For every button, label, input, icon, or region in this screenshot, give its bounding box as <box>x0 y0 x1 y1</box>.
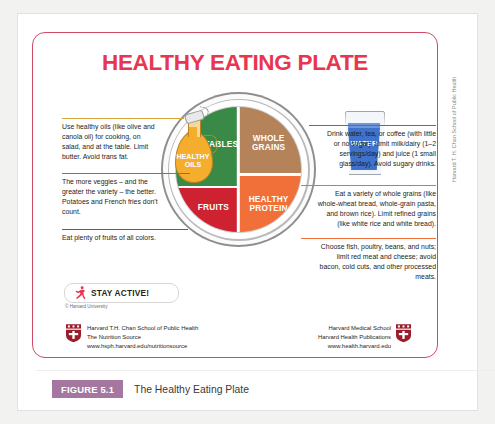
credit-left-line2: The Nutrition Source <box>87 333 257 342</box>
plate-label-fruits: FRUITS <box>198 203 229 213</box>
callout-text-fruits: Eat plenty of fruits of all colors. <box>62 233 158 243</box>
plate-label-healthy-protein: HEALTHYPROTEIN <box>249 195 289 214</box>
callout-text-vegetables: The more veggies – and the greater the v… <box>62 177 158 216</box>
page-title: HEALTHY EATING PLATE <box>33 50 437 76</box>
credit-right-line3[interactable]: www.health.harvard.edu <box>241 342 391 351</box>
side-credit-vertical: Harvard T. H. Chan School of Public Heal… <box>451 77 457 182</box>
running-figure-icon <box>69 285 91 301</box>
plate-divider-vertical <box>237 107 239 232</box>
callout-rule-water <box>326 125 436 126</box>
figure-number-badge: FIGURE 5.1 <box>52 380 123 398</box>
callout-rule-healthy-protein <box>316 238 436 239</box>
healthy-eating-plate-poster: HEALTHY EATING PLATE VEGETABLES FRUITS W… <box>32 32 438 358</box>
credit-left-line3[interactable]: www.hsph.harvard.edu/nutritionsource <box>87 342 257 351</box>
figure-caption-bar: FIGURE 5.1 The Healthy Eating Plate <box>52 380 249 398</box>
callout-text-water: Drink water, tea, or coffee (with little… <box>326 129 436 168</box>
callout-text-healthy-protein: Choose fish, poultry, beans, and nuts; l… <box>316 242 436 281</box>
callout-healthy-protein: Choose fish, poultry, beans, and nuts; l… <box>316 238 436 281</box>
figure-caption-text: The Healthy Eating Plate <box>134 384 249 395</box>
callout-rule-whole-grains <box>316 185 436 186</box>
page-sheet: HEALTHY EATING PLATE VEGETABLES FRUITS W… <box>18 14 477 410</box>
healthy-oils-cruet-icon: HEALTHYOILS <box>173 109 213 183</box>
copyright-notice: © Harvard University <box>65 304 107 309</box>
plate-quadrant-fruits: FRUITS <box>176 186 238 232</box>
callout-vegetables: The more veggies – and the greater the v… <box>62 173 158 216</box>
credit-right-line2: Harvard Health Publications <box>241 333 391 342</box>
callout-water: Drink water, tea, or coffee (with little… <box>326 125 436 168</box>
connector-oils <box>158 118 184 119</box>
harvard-shield-icon-left <box>64 323 83 343</box>
callout-whole-grains: Eat a variety of whole grains (like whol… <box>316 185 436 228</box>
credit-harvard-chan: Harvard T.H. Chan School of Public Healt… <box>87 324 257 351</box>
cruet-oil-level <box>189 127 198 137</box>
stay-active-badge: STAY ACTIVE! <box>64 283 179 303</box>
plate-divider-left <box>176 186 238 188</box>
connector-fruits <box>158 229 188 230</box>
credit-left-line1: Harvard T.H. Chan School of Public Healt… <box>87 324 257 333</box>
healthy-oils-label: HEALTHYOILS <box>173 153 213 169</box>
callout-rule-vegetables <box>62 173 158 174</box>
callout-healthy-oils: Use healthy oils (like olive and canola … <box>62 118 158 161</box>
callout-rule-fruits <box>62 229 158 230</box>
harvard-shield-icon-right <box>394 323 413 343</box>
callout-text-oils: Use healthy oils (like olive and canola … <box>62 122 158 161</box>
callout-fruits: Eat plenty of fruits of all colors. <box>62 229 158 243</box>
plate-label-whole-grains: WHOLEGRAINS <box>252 134 285 153</box>
connector-vegetables <box>158 173 190 174</box>
stay-active-label: STAY ACTIVE! <box>91 288 149 298</box>
callout-rule-oils <box>62 118 158 119</box>
credit-right-line1: Harvard Medical School <box>241 324 391 333</box>
plate-divider-right <box>238 173 300 175</box>
plate-quadrant-whole-grains: WHOLEGRAINS <box>238 107 300 173</box>
callout-text-whole-grains: Eat a variety of whole grains (like whol… <box>316 189 436 228</box>
plate-quadrant-healthy-protein: HEALTHYPROTEIN <box>238 173 300 232</box>
credit-harvard-medical: Harvard Medical School Harvard Health Pu… <box>241 324 391 351</box>
caption-divider <box>36 370 495 371</box>
